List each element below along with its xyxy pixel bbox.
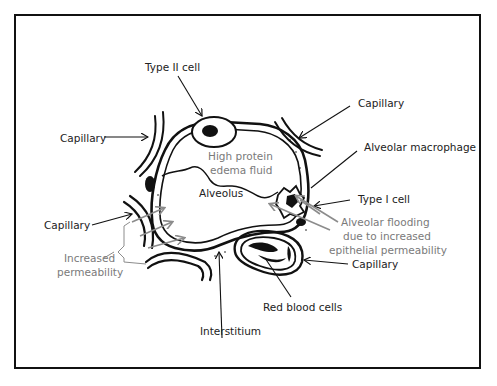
label-flooding-line1: Alveolar flooding (341, 215, 430, 229)
red-blood-cells (248, 243, 291, 263)
label-increased-line2: permeability (57, 265, 123, 279)
capillary-left (124, 196, 211, 280)
type-ii-cell (192, 117, 236, 147)
label-flooding-line2: due to increased (343, 229, 431, 243)
arrow-capillary-top-right (299, 106, 350, 138)
arrow-red-blood-cells (265, 258, 291, 297)
arrow-type-ii-cell (178, 76, 202, 116)
label-capillary-top-right: Capillary (358, 96, 404, 110)
label-increased-line1: Increased (64, 251, 115, 265)
label-red-blood-cells: Red blood cells (263, 300, 342, 314)
label-flooding-line3: epithelial permeability (329, 243, 447, 257)
label-type-i-cell: Type I cell (358, 192, 410, 206)
permeability-bracket (118, 222, 146, 264)
type-i-cell-nucleus-left (145, 176, 155, 192)
label-high-protein-line1: High protein (208, 149, 273, 163)
label-interstitium: Interstitium (200, 324, 261, 338)
label-capillary-bottom-right: Capillary (352, 257, 398, 271)
label-alveolus: Alveolus (199, 186, 243, 200)
capillary-top-right (275, 118, 322, 156)
label-high-protein-line2: edema fluid (210, 163, 272, 177)
label-alveolar-macrophage: Alveolar macrophage (364, 140, 476, 154)
label-capillary-left: Capillary (44, 218, 90, 232)
arrow-type-i-cell (314, 200, 350, 206)
label-capillary-top-left: Capillary (60, 131, 106, 145)
arrow-capillary-bottom-right (304, 260, 348, 264)
label-type-ii-cell: Type II cell (145, 60, 200, 74)
arrow-capillary-left (92, 214, 132, 225)
